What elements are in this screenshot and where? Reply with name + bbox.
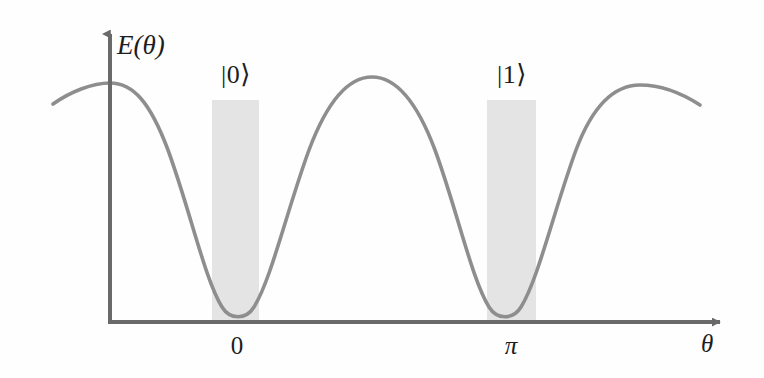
x-tick-label-pi: π — [489, 333, 533, 358]
x-axis-label: θ — [701, 331, 713, 356]
energy-curve — [53, 77, 700, 317]
ket-0-label: |0⟩ — [205, 62, 267, 88]
ket-0-band — [212, 100, 259, 322]
y-axis-label: E(θ) — [117, 32, 165, 59]
plot-canvas — [0, 0, 764, 378]
energy-landscape-figure: E(θ) θ 0 π |0⟩ |1⟩ — [0, 0, 764, 378]
x-tick-label-zero: 0 — [215, 333, 259, 358]
ket-1-label: |1⟩ — [481, 62, 543, 88]
